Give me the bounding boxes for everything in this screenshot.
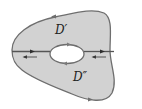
hole [50, 45, 84, 64]
label-upper-region: D′ [54, 23, 68, 37]
region-diagram: D′ D″ [0, 0, 142, 109]
label-lower-region: D″ [72, 70, 88, 84]
